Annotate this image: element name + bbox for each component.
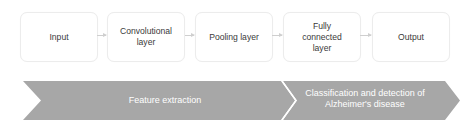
phase-label-feature-extraction: Feature extraction [105,95,225,106]
phase-label-classification: Classification and detection of Alzheime… [296,88,434,110]
